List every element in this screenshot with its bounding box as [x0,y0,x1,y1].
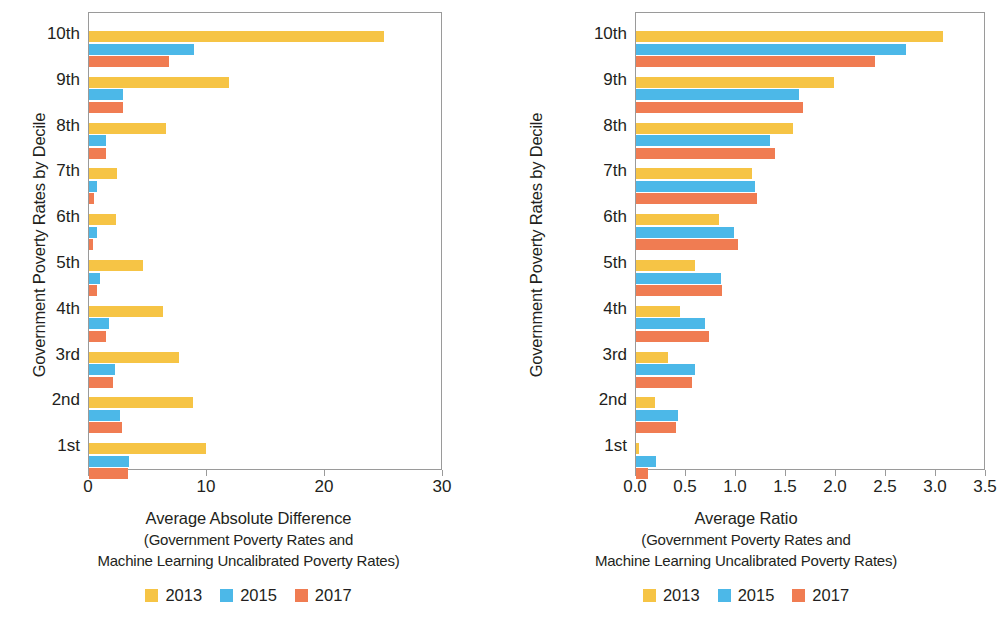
y-tick-3rd: 3rd [16,345,80,365]
legend-item-2013[interactable]: 2013 [145,586,202,605]
y-tick-9th: 9th [16,70,80,90]
bar-2015-5th [636,273,721,284]
legend-item-2015[interactable]: 2015 [718,586,775,605]
x-tick-0.5: 0.5 [673,477,697,497]
bar-group-4th [636,300,984,346]
bar-2015-5th [89,273,100,284]
bar-group-4th [89,300,441,346]
bar-group-7th [89,162,441,208]
bar-2015-1st [636,456,656,467]
x-axis-caption-left: Average Absolute Difference (Government … [0,508,497,571]
x-tick-mark-1.5 [785,470,786,476]
legend-swatch-icon-2017 [792,589,805,602]
bar-2013-9th [636,77,834,88]
bar-group-2nd [89,391,441,437]
bar-group-3rd [636,346,984,392]
legend-label-2015: 2015 [738,586,775,605]
y-tick-9th: 9th [563,70,627,90]
bar-2017-4th [89,331,106,342]
bar-2013-6th [636,214,719,225]
bar-2013-1st [636,443,639,454]
bar-2013-7th [89,168,117,179]
bar-2015-6th [89,227,97,238]
bar-2015-3rd [636,364,695,375]
legend-swatch-icon-2013 [145,589,158,602]
legend-item-2017[interactable]: 2017 [295,586,352,605]
bar-group-3rd [89,346,441,392]
bar-2015-1st [89,456,129,467]
bar-2015-4th [636,318,705,329]
plot-area-right [635,12,985,470]
bar-2017-3rd [89,377,113,388]
bar-2015-10th [89,44,194,55]
x-tick-0.0: 0.0 [623,477,647,497]
x-tick-30: 30 [433,477,452,497]
y-tick-8th: 8th [16,116,80,136]
legend-swatch-icon-2013 [643,589,656,602]
bar-group-10th [89,25,441,71]
bar-group-8th [89,117,441,163]
bar-2015-3rd [89,364,115,375]
legend-swatch-icon-2015 [718,589,731,602]
legend-left: 201320152017 [0,586,497,605]
legend-right: 201320152017 [497,586,995,605]
bar-2015-7th [89,181,97,192]
bar-2017-9th [89,102,123,113]
bar-group-9th [89,71,441,117]
bar-group-6th [636,208,984,254]
y-tick-2nd: 2nd [563,390,627,410]
bar-group-9th [636,71,984,117]
bar-2013-6th [89,214,116,225]
bar-2013-3rd [89,352,179,363]
x-axis-title-right: Average Ratio [497,508,995,529]
x-tick-2.0: 2.0 [823,477,847,497]
x-axis-subtitle-right-1: (Government Poverty Rates and [497,529,995,550]
legend-item-2017[interactable]: 2017 [792,586,849,605]
x-axis-subtitle-left-1: (Government Poverty Rates and [0,529,497,550]
bar-2013-8th [89,123,166,134]
bar-2017-7th [636,193,757,204]
x-tick-mark-0 [88,470,89,476]
bar-2015-10th [636,44,906,55]
y-tick-5th: 5th [563,253,627,273]
x-axis-title-left: Average Absolute Difference [0,508,497,529]
legend-label-2017: 2017 [315,586,352,605]
bar-2013-3rd [636,352,668,363]
x-tick-mark-0.5 [685,470,686,476]
x-axis-subtitle-left-2: Machine Learning Uncalibrated Poverty Ra… [0,550,497,571]
legend-label-2017: 2017 [812,586,849,605]
x-tick-10: 10 [197,477,216,497]
y-tick-1st: 1st [16,436,80,456]
y-axis-title-right: Government Poverty Rates by Decile [523,10,549,480]
bar-group-2nd [636,391,984,437]
bar-2017-10th [89,56,169,67]
bar-2015-2nd [636,410,678,421]
chart-panel-right: Government Poverty Rates by Decile 10th9… [497,0,995,619]
y-tick-2nd: 2nd [16,390,80,410]
bar-2015-8th [89,135,106,146]
bar-2017-3rd [636,377,692,388]
legend-label-2015: 2015 [240,586,277,605]
bar-2017-8th [636,148,775,159]
y-tick-10th: 10th [16,24,80,44]
bar-group-1st [89,437,441,483]
bar-2017-9th [636,102,803,113]
legend-item-2015[interactable]: 2015 [220,586,277,605]
bar-2017-2nd [636,422,676,433]
bar-2017-6th [636,239,738,250]
bar-2015-6th [636,227,734,238]
x-tick-3.5: 3.5 [973,477,997,497]
legend-swatch-icon-2017 [295,589,308,602]
bar-2013-10th [89,31,384,42]
x-tick-1.5: 1.5 [773,477,797,497]
legend-item-2013[interactable]: 2013 [643,586,700,605]
bar-2013-5th [89,260,143,271]
bar-2013-8th [636,123,793,134]
x-axis-subtitle-right-2: Machine Learning Uncalibrated Poverty Ra… [497,550,995,571]
bar-2015-7th [636,181,755,192]
y-tick-4th: 4th [563,299,627,319]
bar-2015-9th [89,89,123,100]
x-tick-1.0: 1.0 [723,477,747,497]
y-tick-1st: 1st [563,436,627,456]
